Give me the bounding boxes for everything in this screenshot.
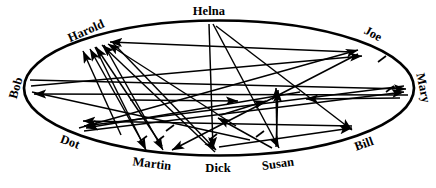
node-label-helna[interactable]: Helna [193,5,225,18]
node-label-dick[interactable]: Dick [205,162,230,175]
edge-mary-left [306,98,400,99]
tick-mark [378,56,386,62]
edge-bob-joe [31,56,362,86]
sociogram-diagram: Bob Harold Helna Joe Mary Bill Susan Dic… [0,0,436,188]
edge-layer [30,24,408,152]
edge-mary-bob [34,94,408,95]
edge-dot-joe [79,50,358,128]
tick-mark [166,125,174,131]
edge-joe-martin [172,54,358,150]
tick-mark [256,131,264,137]
edge-mid-right [130,100,238,101]
edge-joe-harold [110,42,352,52]
edge-helna-bill [216,26,352,130]
